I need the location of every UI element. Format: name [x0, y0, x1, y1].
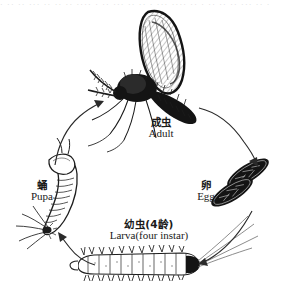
stage-label-egg-en: Egg: [186, 191, 226, 203]
arrow-adult-to-egg: [199, 108, 258, 167]
stage-label-adult: 成虫 Adult: [130, 117, 192, 140]
stage-label-pupa: 蛹 Pupa: [20, 180, 64, 203]
stage-label-larva: 幼虫(4龄) Larva(four instar): [88, 219, 210, 242]
stage-label-egg: 卵 Egg: [186, 180, 226, 203]
stage-label-pupa-en: Pupa: [20, 191, 64, 203]
stage-label-larva-en: Larva(four instar): [88, 230, 210, 242]
life-cycle-diagram: · ·· ·· ··· ·· ·· ·· ···· · ·· ··· ·· ··…: [0, 0, 287, 288]
stage-label-adult-en: Adult: [130, 128, 192, 140]
illustration-layer: [0, 0, 287, 288]
